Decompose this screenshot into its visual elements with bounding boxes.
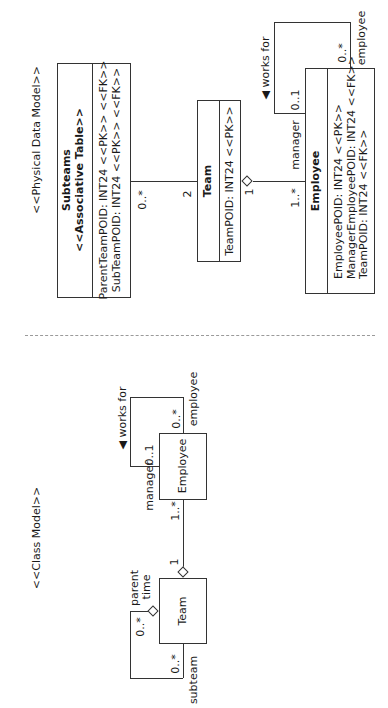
team-name: Team (202, 165, 214, 197)
employee-class-name: Employee (177, 439, 189, 493)
class-parent-multiplicity: 0..* (135, 617, 147, 637)
employee-name: Employee (310, 151, 322, 211)
works-for-text: works for (259, 37, 272, 88)
class-employee-agg-multiplicity: 1..* (170, 501, 182, 521)
subteams-team-association (131, 181, 197, 182)
subteams-multiplicity: 0..* (137, 190, 149, 210)
physical-model-title: <<Physical Data Model>> (31, 66, 43, 214)
works-for-loop-left (274, 22, 275, 114)
employee-role: employee (356, 11, 368, 65)
class-team-loop-bottom (130, 678, 183, 679)
class-works-for-loop-left (130, 397, 131, 467)
class-parent-role-line2: time (141, 575, 153, 600)
class-team-agg-multiplicity: 1 (169, 559, 181, 566)
class-model-title: <<Class Model>> (31, 487, 43, 589)
model-separator (25, 335, 375, 336)
team-multiplicity-2: 2 (182, 191, 194, 198)
class-manager-role: manager (144, 461, 156, 510)
class-team-loop-right (183, 644, 184, 678)
class-aggregation-diamond-icon (177, 566, 188, 577)
subteams-attr-parent: ParentTeamPOID: INT24 <<PK>> <<FK>> (98, 61, 110, 300)
class-subteam-multiplicity: 0..* (170, 654, 182, 674)
subteams-attr-sub: SubTeamPOID: INT24 <<PK>> <<FK>> (111, 68, 123, 293)
team-attr: TeamPOID: INT24 <<PK>> (224, 106, 236, 256)
class-team-loop-left (130, 611, 131, 678)
class-team-self-diamond-icon (147, 605, 158, 616)
class-subteam-role: subteam (188, 656, 200, 704)
class-works-for-loop-right (183, 397, 184, 433)
team-class-name: Team (177, 596, 189, 625)
works-for-loop-bottom (274, 113, 305, 114)
subteams-divider (92, 63, 93, 298)
aggregation-diamond-icon (241, 175, 252, 186)
works-for-loop-top (274, 22, 350, 23)
class-team-employee-association (183, 500, 184, 567)
employee-attr-team: TeamPOID: INT24 <<FK>> (358, 83, 370, 279)
works-for-label: ◀ works for (260, 37, 272, 100)
class-employee-multiplicity: 0..* (171, 409, 183, 429)
subteams-name: Subteams (61, 149, 73, 211)
employee-divider (327, 68, 328, 294)
employee-self-multiplicity: 0..* (337, 43, 349, 63)
works-for-loop-right (350, 22, 351, 68)
class-employee-role: employee (188, 372, 200, 426)
team-divider (219, 100, 220, 262)
manager-self-multiplicity: 0..1 (290, 90, 302, 111)
direction-arrow-icon: ◀ (259, 91, 272, 99)
class-works-for-label: ◀ works for (117, 387, 129, 450)
class-direction-arrow-icon: ◀ (116, 441, 129, 449)
employee-multiplicity: 1..* (290, 188, 302, 208)
team-employee-association (253, 181, 305, 182)
team-multiplicity-1: 1 (244, 189, 256, 196)
manager-role: manager (290, 120, 302, 169)
class-team-loop-top (130, 611, 148, 612)
class-works-for-loop-top (130, 397, 183, 398)
employee-attr-pk: EmployeePOID: INT24 <<PK>> (333, 83, 345, 279)
uml-diagram-canvas: <<Physical Data Model>> Subteams <<Assoc… (0, 0, 388, 708)
subteams-stereotype: <<Associative Table>> (74, 108, 86, 252)
class-works-for-text: works for (116, 387, 129, 438)
